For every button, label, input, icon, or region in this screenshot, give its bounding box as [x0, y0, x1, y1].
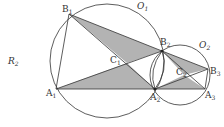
point-a2-dot — [154, 88, 157, 91]
label-c1: C1 — [110, 55, 121, 66]
point-b2-dot — [161, 50, 164, 53]
label-b2: B2 — [160, 37, 171, 48]
circle-o1 — [50, 4, 164, 118]
label-o1: O1 — [137, 1, 148, 12]
label-a1: A1 — [45, 88, 56, 99]
geometry-figure: R2 B1 A1 A2 B2 C1 B3 A3 C2 O1 O2 — [0, 0, 224, 127]
label-b1: B1 — [62, 4, 72, 15]
label-a3: A3 — [204, 90, 216, 101]
lens-arc-left — [153, 51, 162, 89]
label-o2: O2 — [199, 40, 210, 51]
label-a2: A2 — [149, 92, 161, 103]
label-r: R2 — [7, 56, 19, 67]
label-b3: B3 — [210, 66, 221, 77]
